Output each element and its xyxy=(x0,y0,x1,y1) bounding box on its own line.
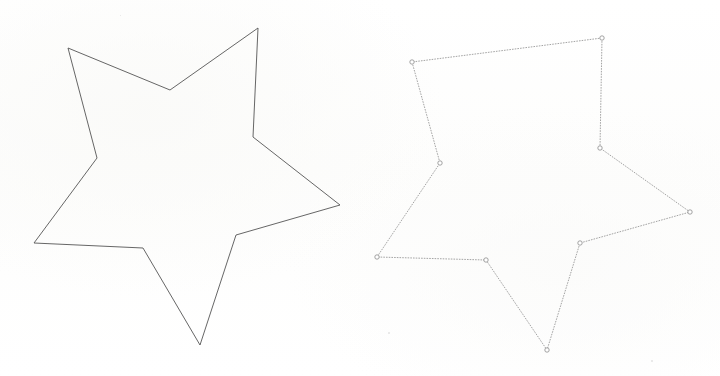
vertex-marker xyxy=(600,36,604,40)
original-star-outline xyxy=(34,28,340,345)
image-canvas xyxy=(0,0,720,376)
figure-original-star xyxy=(34,28,340,345)
simplified-star-outline xyxy=(377,38,690,350)
vertex-marker xyxy=(688,210,692,214)
vertex-marker xyxy=(578,241,582,245)
star-figures-svg xyxy=(0,0,720,376)
vertex-marker xyxy=(484,258,488,262)
figure-simplified-star xyxy=(375,36,692,352)
simplified-star-vertex-markers xyxy=(375,36,692,352)
vertex-marker xyxy=(438,161,442,165)
vertex-marker xyxy=(545,348,549,352)
vertex-marker xyxy=(410,60,414,64)
vertex-marker xyxy=(375,255,379,259)
vertex-marker xyxy=(598,146,602,150)
